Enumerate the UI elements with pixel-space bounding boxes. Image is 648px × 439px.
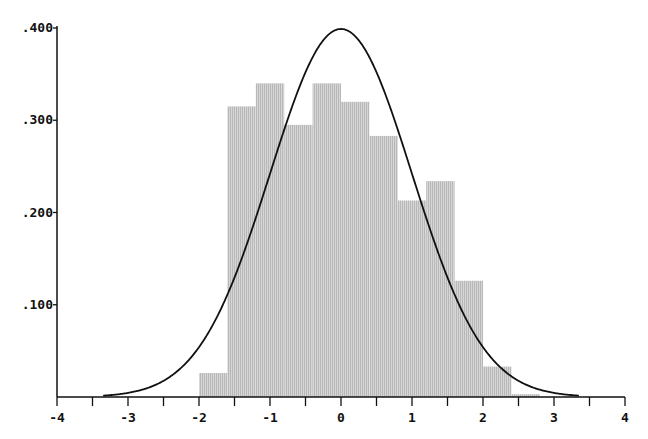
x-tick-label: 0 xyxy=(337,410,345,425)
histogram-bar xyxy=(483,367,511,397)
x-tick-label: -1 xyxy=(262,410,278,425)
y-tick-label: .300 xyxy=(22,112,53,127)
y-axis-ticks: .100.200.300.400 xyxy=(22,20,57,312)
histogram-bar xyxy=(398,201,426,397)
histogram-bar xyxy=(256,83,284,397)
histogram-bar xyxy=(369,136,397,397)
histogram-bar xyxy=(313,83,341,397)
x-tick-label: -2 xyxy=(191,410,207,425)
x-tick-label: -3 xyxy=(120,410,136,425)
histogram-chart: .100.200.300.400 -4-3-2-101234 xyxy=(0,0,648,439)
histogram-bar xyxy=(341,102,369,397)
histogram-bar xyxy=(227,106,255,397)
x-tick-label: -4 xyxy=(49,410,65,425)
histogram-bars xyxy=(199,83,540,397)
x-tick-label: 2 xyxy=(479,410,487,425)
y-tick-label: .100 xyxy=(22,297,53,312)
y-tick-label: .400 xyxy=(22,20,53,35)
histogram-bar xyxy=(199,373,227,397)
histogram-bar xyxy=(284,125,312,397)
histogram-bar xyxy=(426,181,454,397)
x-tick-label: 3 xyxy=(550,410,558,425)
x-tick-label: 4 xyxy=(621,410,629,425)
y-tick-label: .200 xyxy=(22,205,53,220)
histogram-bar xyxy=(455,281,483,397)
x-tick-label: 1 xyxy=(408,410,416,425)
x-axis-ticks: -4-3-2-101234 xyxy=(49,397,629,425)
